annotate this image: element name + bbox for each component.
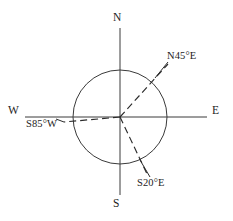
bearing-label-s85w: S85°W xyxy=(26,119,57,130)
bearing-label-s20e: S20°E xyxy=(137,178,164,189)
leader-line-s20e xyxy=(140,160,150,177)
bearing-label-n45e: N45°E xyxy=(167,51,196,62)
bearing-ray-n45e xyxy=(120,64,168,117)
cardinal-west-label: W xyxy=(8,105,19,117)
bearing-diagram: N E S W N45°E S85°W S20°E xyxy=(0,0,233,221)
cardinal-east-label: E xyxy=(212,105,219,117)
leader-line-n45e xyxy=(155,62,168,78)
cardinal-north-label: N xyxy=(113,12,122,24)
leader-line-s85w xyxy=(56,119,64,122)
compass-rose-graphic xyxy=(0,0,233,221)
cardinal-south-label: S xyxy=(113,198,120,210)
bearing-ray-s85w xyxy=(64,117,120,122)
